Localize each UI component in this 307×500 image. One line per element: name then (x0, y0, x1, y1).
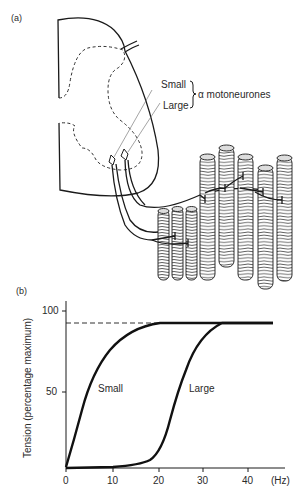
motor-unit-diagram (0, 0, 307, 500)
y-tick-100: 100 (42, 306, 59, 316)
x-tick-20: 20 (153, 476, 164, 486)
x-tick-0: 0 (63, 476, 69, 486)
x-tick-10: 10 (107, 476, 118, 486)
large-motoneuron-soma (121, 149, 128, 160)
y-axis-title: Tension (percentage maximum) (22, 318, 33, 458)
small-unit-curve (66, 323, 273, 467)
small-motoneuron-label: Small (161, 80, 186, 90)
large-motoneuron-label: Large (163, 101, 189, 111)
small-curve-label: Small (98, 384, 123, 394)
alpha-motoneurones-label: α motoneurones (198, 90, 271, 100)
muscle-fibres-large-unit (200, 145, 292, 289)
x-tick-40: 40 (242, 476, 253, 486)
y-tick-50: 50 (46, 387, 57, 397)
large-unit-curve (66, 323, 273, 468)
x-axis-unit: (Hz) (271, 476, 290, 486)
chart-axes (62, 301, 285, 472)
alpha-motoneurone-bracket (190, 81, 196, 108)
grey-matter-outline (59, 46, 142, 170)
large-curve-label: Large (189, 384, 215, 394)
spinal-cord-section (58, 18, 159, 196)
panel-b-label: (b) (16, 286, 27, 296)
x-tick-30: 30 (197, 476, 208, 486)
